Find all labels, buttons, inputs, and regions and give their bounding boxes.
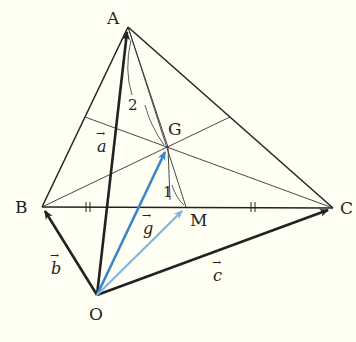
centroid-vector-diagram: A B C O M G 2 1 → a → b → c → g: [0, 0, 356, 342]
label-a: A: [106, 8, 120, 28]
medians: [42, 27, 333, 208]
label-c: C: [340, 198, 353, 218]
svg-text:b: b: [51, 259, 61, 278]
svg-text:a: a: [97, 137, 107, 156]
vector-label-g: → g: [142, 209, 153, 238]
label-g: G: [168, 119, 182, 139]
vector-oa: [97, 32, 127, 295]
median-b: [42, 117, 230, 207]
label-o: O: [89, 304, 103, 324]
svg-text:g: g: [143, 219, 153, 238]
vector-label-c: → c: [212, 256, 222, 285]
vector-label-b: → b: [50, 249, 61, 278]
side-ac: [128, 27, 333, 208]
label-m: M: [190, 210, 207, 230]
vector-label-a: → a: [96, 127, 107, 156]
ratio-label-1: 1: [163, 183, 173, 201]
median-c: [85, 117, 333, 208]
svg-text:c: c: [213, 266, 222, 285]
vector-om: [97, 211, 182, 295]
ratio-label-2: 2: [128, 96, 138, 114]
label-b: B: [15, 197, 28, 217]
